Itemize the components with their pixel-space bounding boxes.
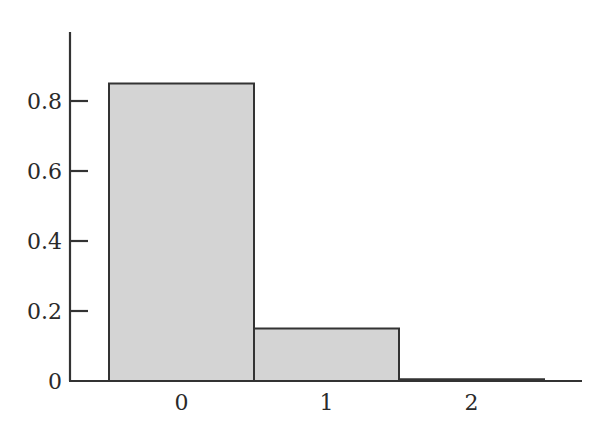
x-tick-label: 2 [465,390,479,415]
bar-1 [254,329,399,382]
y-tick-label: 0.8 [27,89,62,114]
y-tick-label: 0.2 [27,299,62,324]
bars-group [109,84,544,382]
y-tick-label: 0.4 [27,229,62,254]
x-axis-labels: 012 [175,390,479,415]
x-tick-label: 1 [320,390,334,415]
bar-chart: 00.20.40.60.8 012 [0,0,607,428]
bar-0 [109,84,254,382]
y-axis-ticks: 00.20.40.60.8 [27,89,88,394]
x-tick-label: 0 [175,390,189,415]
y-tick-label: 0.6 [27,159,62,184]
y-tick-label: 0 [48,369,62,394]
